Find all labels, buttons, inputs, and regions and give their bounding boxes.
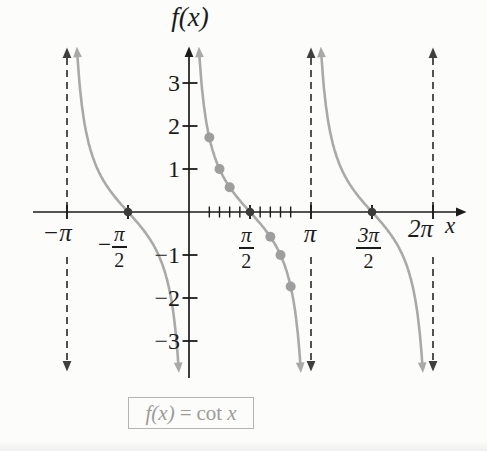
x-tick-label-pi: π	[298, 221, 322, 247]
curve-down-arrow	[418, 362, 427, 373]
fraction-denominator: 2	[114, 250, 124, 270]
fraction-bar	[356, 247, 381, 249]
fraction-denominator: 2	[241, 251, 251, 271]
asymptote-down-arrow	[429, 361, 438, 372]
y-axis-arrow	[185, 47, 194, 58]
fraction-denominator: 2	[364, 251, 374, 271]
asymptote-down-arrow	[63, 361, 72, 372]
cotangent-figure: f(x) x −π − π 2 π 2 π 3π 2 2π 3 2 1 −1 −…	[0, 0, 487, 451]
x-tick-label-2pi: 2π	[408, 216, 433, 242]
y-tick-label-1: 1	[138, 156, 180, 182]
caption-eq: =	[180, 401, 192, 426]
caption-fx: f(x)	[146, 401, 175, 426]
x-tick-label-neg-pi-over-2: − π 2	[98, 224, 127, 270]
fraction-bar	[239, 247, 254, 249]
x-axis-label: x	[445, 214, 455, 238]
x-intercept-dot	[368, 208, 377, 217]
plotted-point	[286, 281, 296, 291]
y-tick-label-neg-2: −2	[138, 285, 180, 311]
plotted-point	[225, 182, 235, 192]
curve-up-arrow	[317, 47, 326, 58]
x-axis-arrow	[456, 208, 467, 217]
asymptote-up-arrow	[63, 48, 72, 59]
y-tick-label-3: 3	[138, 70, 180, 96]
x-intercept-dot	[246, 208, 255, 217]
curve-down-arrow	[296, 362, 305, 373]
fraction-numerator: π	[239, 225, 254, 246]
fraction-numerator: 3π	[356, 225, 381, 246]
y-tick-label-2: 2	[138, 113, 180, 139]
plotted-point	[265, 232, 275, 242]
y-tick-label-neg-1: −1	[138, 242, 180, 268]
plotted-point	[276, 250, 286, 260]
plotted-point	[215, 164, 225, 174]
plotted-point	[204, 133, 214, 143]
fraction: π 2	[112, 224, 127, 270]
y-axis-label: f(x)	[158, 3, 222, 31]
x-intercept-dot	[124, 208, 133, 217]
fraction: π 2	[239, 225, 254, 271]
asymptote-up-arrow	[429, 48, 438, 59]
fraction-numerator: π	[112, 224, 127, 245]
caption-cot: cot	[197, 401, 223, 426]
x-tick-label-neg-pi: −π	[34, 220, 80, 246]
y-tick-label-neg-3: −3	[138, 328, 180, 354]
curve-up-arrow	[195, 47, 204, 58]
fraction-bar	[112, 246, 127, 248]
minus-sign: −	[98, 232, 111, 258]
x-tick-label-3pi-over-2: 3π 2	[356, 225, 381, 271]
fraction: 3π 2	[356, 225, 381, 271]
asymptote-up-arrow	[307, 48, 316, 59]
equation-caption-box: f(x) = cot x	[128, 397, 254, 429]
asymptote-down-arrow	[307, 361, 316, 372]
caption-x: x	[227, 401, 236, 426]
x-tick-label-pi-over-2: π 2	[239, 225, 254, 271]
curve-down-arrow	[174, 362, 183, 373]
curve-up-arrow	[73, 47, 82, 58]
